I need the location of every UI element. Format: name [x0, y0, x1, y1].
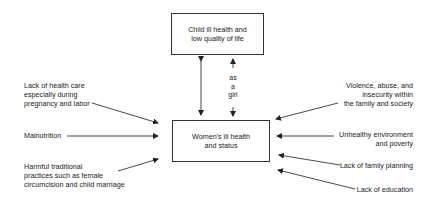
label-line: as — [224, 74, 242, 83]
cause-health-care: Lack of health care especially during pr… — [24, 81, 90, 108]
label-line: the family and society — [344, 99, 413, 108]
cause-harmful-practices: Harmful traditional practices such as fe… — [24, 162, 125, 189]
arrow-health-care — [92, 103, 158, 123]
label-line: especially during — [24, 90, 90, 99]
label-line: Harmful traditional — [24, 162, 125, 171]
cause-malnutrition: Malnutrition — [24, 131, 61, 140]
label-line: girl — [224, 91, 242, 100]
cause-environment: Unhealthy environment and poverty — [339, 130, 413, 148]
box-text-line: Women's ill health — [192, 132, 250, 141]
label-line: and poverty — [339, 139, 413, 148]
arrow-family-planning — [279, 155, 340, 165]
label-line: practices such as female — [24, 171, 125, 180]
label-line: Lack of family planning — [340, 161, 413, 170]
box-text-line: Child ill health and — [188, 25, 247, 34]
child-ill-health-box: Child ill health and low quality of life — [171, 13, 264, 55]
label-line: Malnutrition — [24, 131, 61, 140]
label-line: circumcision and child marriage — [24, 180, 125, 189]
as-a-girl-label: as a girl — [224, 74, 242, 100]
label-line: Lack of education — [357, 185, 413, 194]
box-text-line: and status — [192, 141, 250, 150]
label-line: a — [224, 83, 242, 92]
box-text-line: low quality of life — [188, 34, 247, 43]
label-line: Lack of health care — [24, 81, 90, 90]
arrow-education — [278, 170, 355, 189]
label-line: pregnancy and labor — [24, 99, 90, 108]
label-line: Violence, abuse, and — [344, 81, 413, 90]
womens-ill-health-box: Women's ill health and status — [172, 120, 270, 162]
cause-violence: Violence, abuse, and insecurity within t… — [344, 81, 413, 108]
label-line: Unhealthy environment — [339, 130, 413, 139]
cause-education: Lack of education — [357, 185, 413, 194]
cause-family-planning: Lack of family planning — [340, 161, 413, 170]
label-line: insecurity within — [344, 90, 413, 99]
arrow-violence — [276, 103, 338, 119]
